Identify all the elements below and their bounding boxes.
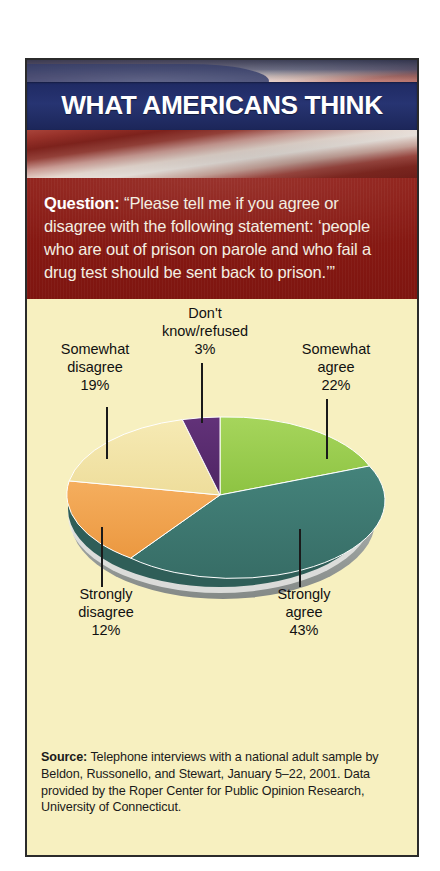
source-text: Telephone interviews with a national adu… — [41, 750, 379, 814]
title-banner: WHAT AMERICANS THINK — [27, 82, 417, 130]
pie-value-strongly-disagree: 12% — [41, 622, 171, 640]
page-title: WHAT AMERICANS THINK — [27, 93, 417, 119]
pie-value-somewhat-disagree: 19% — [33, 377, 157, 395]
question-label: Question: — [44, 194, 120, 212]
pie-label-strongly-agree-line2: agree — [285, 604, 322, 620]
pie-value-dont-know: 3% — [145, 341, 265, 359]
pie-label-strongly-disagree-line2: disagree — [78, 604, 134, 620]
question-block: Question: “Please tell me if you agree o… — [27, 178, 417, 299]
infographic-page: WHAT AMERICANS THINK Question: “Please t… — [0, 0, 440, 871]
infographic-card: WHAT AMERICANS THINK Question: “Please t… — [25, 58, 419, 857]
pie-label-somewhat-disagree-line1: Somewhat — [61, 341, 130, 357]
source-note: Source: Telephone interviews with a nati… — [27, 737, 417, 815]
pie-label-dont-know-line2: know/refused — [162, 323, 248, 339]
pie-label-dont-know-line1: Don't — [188, 305, 221, 321]
pie-label-strongly-disagree: Strongly disagree 12% — [41, 586, 171, 639]
flag-header: WHAT AMERICANS THINK — [27, 60, 417, 178]
pie-label-strongly-agree: Strongly agree 43% — [239, 586, 369, 639]
pie-label-somewhat-disagree-line2: disagree — [67, 359, 123, 375]
pie-label-strongly-agree-line1: Strongly — [277, 586, 330, 602]
pie-chart: Don't know/refused 3% Somewhat agree 22%… — [27, 299, 417, 737]
pie-label-dont-know: Don't know/refused 3% — [145, 305, 265, 358]
source-label: Source: — [41, 750, 87, 764]
pie-label-strongly-disagree-line1: Strongly — [79, 586, 132, 602]
pie-label-somewhat-disagree: Somewhat disagree 19% — [33, 341, 157, 394]
pie-value-strongly-agree: 43% — [239, 622, 369, 640]
pie-value-somewhat-agree: 22% — [277, 377, 395, 395]
pie-label-somewhat-agree: Somewhat agree 22% — [277, 341, 395, 394]
question-text-wrap: Question: “Please tell me if you agree o… — [44, 192, 400, 284]
pie-label-somewhat-agree-line2: agree — [317, 359, 354, 375]
pie-label-somewhat-agree-line1: Somewhat — [302, 341, 371, 357]
